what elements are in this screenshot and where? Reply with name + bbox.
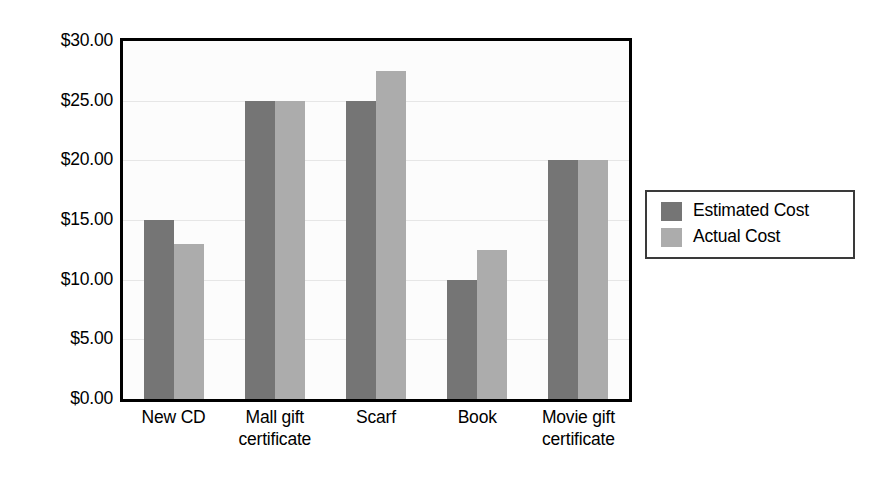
x-axis-tick-label-line: certificate: [212, 428, 337, 450]
bar-group: [144, 41, 204, 399]
plot-area: [120, 38, 632, 402]
bar-actual-cost: [174, 244, 204, 399]
y-axis-tick-label: $5.00: [0, 331, 113, 349]
y-axis-tick-label: $10.00: [0, 271, 113, 289]
bar-estimated-cost: [548, 160, 578, 399]
bar-group: [548, 41, 608, 399]
legend-item-actual-cost: Actual Cost: [661, 225, 780, 249]
bar-group: [447, 41, 507, 399]
x-axis-tick-label: Movie giftcertificate: [516, 406, 641, 450]
bar-actual-cost: [376, 71, 406, 399]
legend-swatch-estimated-cost: [661, 202, 682, 221]
bar-estimated-cost: [245, 101, 275, 399]
legend-label-estimated-cost: Estimated Cost: [693, 202, 809, 220]
y-axis-tick-label: $20.00: [0, 152, 113, 170]
x-axis: New CDMall giftcertificateScarfBookMovie…: [120, 406, 632, 476]
y-axis: $0.00$5.00$10.00$15.00$20.00$25.00$30.00: [0, 0, 113, 481]
bar-group: [245, 41, 305, 399]
bar-group: [346, 41, 406, 399]
bar-actual-cost: [477, 250, 507, 399]
y-axis-tick-label: $30.00: [0, 32, 113, 50]
bar-chart-figure: $0.00$5.00$10.00$15.00$20.00$25.00$30.00…: [0, 0, 894, 481]
legend-label-actual-cost: Actual Cost: [693, 228, 780, 246]
plot-inner: [123, 41, 629, 399]
legend-item-estimated-cost: Estimated Cost: [661, 199, 809, 223]
legend-swatch-actual-cost: [661, 228, 682, 247]
bars-layer: [123, 41, 629, 399]
bar-actual-cost: [578, 160, 608, 399]
bar-actual-cost: [275, 101, 305, 399]
bar-estimated-cost: [346, 101, 376, 399]
x-axis-tick-label-line: certificate: [516, 428, 641, 450]
y-axis-tick-label: $25.00: [0, 92, 113, 110]
bar-estimated-cost: [447, 280, 477, 399]
y-axis-tick-label: $0.00: [0, 390, 113, 408]
bar-estimated-cost: [144, 220, 174, 399]
y-axis-tick-label: $15.00: [0, 211, 113, 229]
x-axis-tick-label-line: Movie gift: [516, 406, 641, 428]
chart-legend: Estimated Cost Actual Cost: [645, 190, 855, 259]
